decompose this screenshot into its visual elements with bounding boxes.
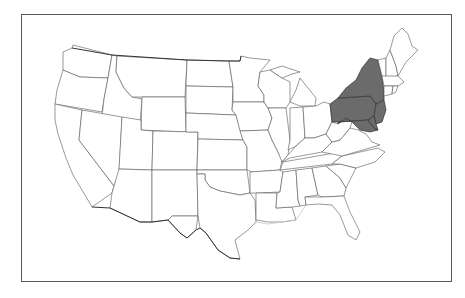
state-kansas[interactable] — [197, 139, 247, 170]
us-map — [0, 0, 465, 298]
state-rhode-island[interactable] — [392, 86, 398, 94]
state-colorado[interactable] — [152, 131, 198, 170]
state-arkansas[interactable] — [250, 170, 283, 193]
state-south-dakota[interactable] — [186, 86, 236, 115]
state-new-mexico[interactable] — [152, 170, 198, 222]
state-pennsylvania[interactable] — [330, 96, 376, 122]
state-florida[interactable] — [305, 196, 360, 240]
state-wyoming[interactable] — [141, 97, 186, 132]
state-montana[interactable] — [116, 56, 187, 97]
state-connecticut[interactable] — [384, 86, 393, 96]
state-north-dakota[interactable] — [186, 60, 233, 87]
state-massachusetts[interactable] — [382, 76, 404, 86]
